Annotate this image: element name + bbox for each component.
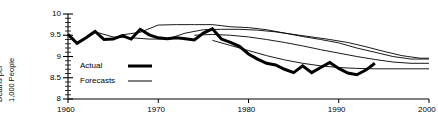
series-line-actual [68,29,375,75]
legend-label-forecasts: Forecasts [80,76,115,85]
legend-label-actual: Actual [80,61,102,70]
legend-lines [128,66,152,81]
plot-area [0,0,438,123]
data-series [68,25,429,75]
series-line-forecast-1 [122,25,429,59]
death-rate-forecast-chart: Deaths per 1,000 People 88.599.510 19601… [0,0,438,123]
series-line-forecast-3 [194,34,429,63]
